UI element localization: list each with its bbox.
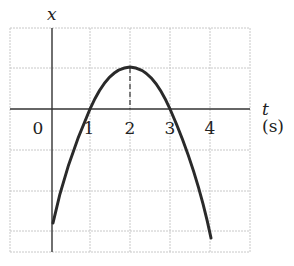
tick-label-3: 3 bbox=[165, 120, 176, 137]
position-curve bbox=[53, 67, 211, 238]
tick-label-0: 0 bbox=[33, 120, 44, 137]
position-time-graph: x t (s) 0 1 2 3 4 bbox=[0, 0, 294, 266]
tick-label-2: 2 bbox=[125, 120, 136, 137]
tick-label-1: 1 bbox=[84, 120, 95, 137]
grid bbox=[10, 28, 250, 252]
plot-area bbox=[0, 0, 294, 266]
tick-label-4: 4 bbox=[205, 120, 216, 137]
y-axis-label: x bbox=[47, 6, 57, 23]
x-axis-label: t (s) bbox=[262, 101, 294, 135]
t-unit: (s) bbox=[262, 116, 284, 136]
